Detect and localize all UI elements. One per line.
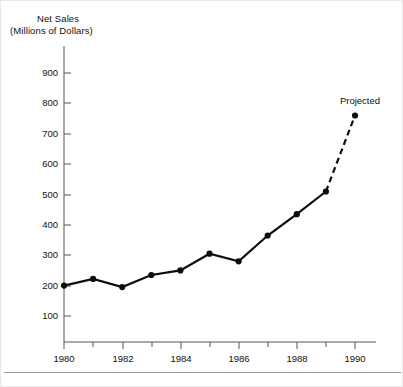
net-sales-line-chart: Net Sales (Millions of Dollars) 900	[1, 1, 403, 387]
x-axis-tick-labels: 1980 1982 1984 1986 1988 1990	[53, 353, 365, 364]
x-tick-label-1986: 1986	[228, 353, 249, 364]
x-axis-ticks	[64, 342, 355, 349]
y-tick-label-600: 600	[42, 158, 58, 169]
data-point-marker	[61, 283, 67, 289]
plot-area: 900 800 700 600 500 400 300 200 100	[1, 1, 403, 387]
y-tick-label-500: 500	[42, 189, 58, 200]
footer-divider	[4, 372, 401, 373]
series-line-actual	[64, 192, 326, 288]
y-tick-label-200: 200	[42, 280, 58, 291]
data-point-marker	[323, 188, 329, 194]
x-tick-label-1980: 1980	[53, 353, 74, 364]
x-tick-label-1988: 1988	[286, 353, 307, 364]
data-point-marker	[177, 267, 183, 273]
y-tick-label-300: 300	[42, 249, 58, 260]
x-tick-label-1984: 1984	[170, 353, 191, 364]
data-point-marker	[265, 232, 271, 238]
data-point-marker	[236, 258, 242, 264]
data-point-marker	[352, 112, 358, 118]
data-point-marker	[206, 251, 212, 257]
y-axis-tick-labels: 900 800 700 600 500 400 300 200 100	[42, 67, 58, 321]
data-point-marker	[148, 272, 154, 278]
y-tick-label-800: 800	[42, 97, 58, 108]
x-tick-label-1982: 1982	[112, 353, 133, 364]
y-tick-label-400: 400	[42, 219, 58, 230]
data-point-marker	[119, 284, 125, 290]
data-point-marker	[90, 276, 96, 282]
data-point-marker	[294, 211, 300, 217]
x-tick-label-1990: 1990	[344, 353, 365, 364]
y-axis-ticks	[64, 73, 71, 316]
projected-annotation-label: Projected	[340, 95, 380, 106]
y-tick-label-900: 900	[42, 67, 58, 78]
y-tick-label-100: 100	[42, 310, 58, 321]
page-container: Net Sales (Millions of Dollars) 900	[0, 0, 403, 387]
y-tick-label-700: 700	[42, 128, 58, 139]
series-line-projected	[326, 116, 355, 192]
